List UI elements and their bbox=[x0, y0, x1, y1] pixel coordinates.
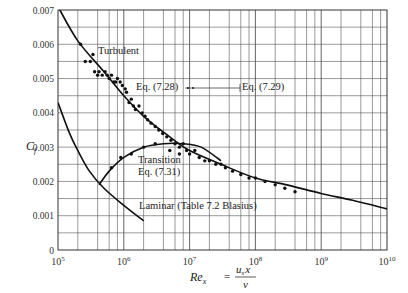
data-point bbox=[127, 101, 130, 104]
data-point bbox=[198, 156, 201, 159]
skin-friction-chart: 00.0010.0020.0030.0040.0050.0060.007 105… bbox=[0, 0, 408, 293]
y-tick-label: 0.001 bbox=[33, 211, 55, 221]
data-point bbox=[293, 190, 296, 193]
data-point bbox=[137, 104, 140, 107]
svg-text:v: v bbox=[243, 278, 248, 290]
data-point bbox=[165, 135, 168, 138]
data-point bbox=[119, 156, 122, 159]
data-point bbox=[254, 176, 257, 179]
eq-range-marker bbox=[187, 87, 189, 89]
data-point bbox=[142, 145, 145, 148]
data-point bbox=[203, 159, 206, 162]
data-point bbox=[263, 180, 266, 183]
data-point bbox=[130, 152, 133, 155]
data-point bbox=[182, 142, 185, 145]
data-point bbox=[140, 111, 143, 114]
data-point bbox=[185, 149, 188, 152]
annotation-eq-7-31: Eq. (7.31) bbox=[138, 166, 181, 178]
data-point bbox=[239, 173, 242, 176]
data-point bbox=[178, 145, 181, 148]
data-point bbox=[161, 132, 164, 135]
data-point bbox=[134, 108, 137, 111]
series-line bbox=[58, 103, 144, 221]
data-point bbox=[132, 104, 135, 107]
annotation-eq-7-29: Eq. (7.29) bbox=[242, 81, 285, 93]
data-point bbox=[125, 91, 128, 94]
x-tick-label: 109 bbox=[314, 255, 328, 267]
data-point bbox=[96, 73, 99, 76]
y-axis-label: Cf bbox=[26, 139, 38, 155]
y-tick-labels: 00.0010.0020.0030.0040.0050.0060.007 bbox=[33, 6, 55, 256]
data-point bbox=[106, 73, 109, 76]
data-point bbox=[143, 115, 146, 118]
data-point bbox=[123, 87, 126, 90]
annotation-turbulent: Turbulent bbox=[98, 45, 139, 56]
data-point bbox=[110, 166, 113, 169]
data-point bbox=[219, 163, 222, 166]
data-point bbox=[146, 118, 149, 121]
y-tick-label: 0.004 bbox=[33, 108, 55, 118]
y-tick-label: 0.007 bbox=[33, 6, 55, 16]
y-tick-label: 0.002 bbox=[33, 177, 55, 187]
svg-text:usx: usx bbox=[236, 263, 250, 277]
x-tick-label: 107 bbox=[183, 255, 197, 267]
data-point bbox=[283, 187, 286, 190]
data-point bbox=[110, 73, 113, 76]
data-point bbox=[193, 149, 196, 152]
data-point bbox=[130, 97, 133, 100]
svg-text:=: = bbox=[224, 270, 230, 282]
annotation-transition: Transition bbox=[138, 154, 182, 165]
x-tick-label: 1010 bbox=[379, 255, 397, 267]
data-point bbox=[103, 70, 106, 73]
series-layer bbox=[58, 7, 387, 221]
data-point bbox=[157, 128, 160, 131]
data-point bbox=[208, 159, 211, 162]
data-point bbox=[274, 183, 277, 186]
data-point bbox=[214, 163, 217, 166]
data-point bbox=[84, 60, 87, 63]
x-tick-label: 106 bbox=[117, 255, 131, 267]
data-point bbox=[91, 53, 94, 56]
data-point bbox=[118, 80, 121, 83]
x-axis-label: Rex = usx v bbox=[189, 263, 256, 290]
series-line bbox=[58, 7, 387, 209]
data-point bbox=[224, 166, 227, 169]
annotation-laminar: Laminar (Table 7.2 Blasius) bbox=[139, 200, 257, 212]
data-point bbox=[121, 84, 124, 87]
y-tick-label: 0.006 bbox=[33, 40, 55, 50]
data-point bbox=[169, 139, 172, 142]
data-point bbox=[114, 80, 117, 83]
x-tick-label: 108 bbox=[249, 255, 263, 267]
data-point bbox=[153, 125, 156, 128]
svg-text:Rex: Rex bbox=[189, 270, 207, 286]
data-point bbox=[231, 169, 234, 172]
data-point bbox=[168, 149, 171, 152]
data-point bbox=[108, 77, 111, 80]
data-point bbox=[93, 70, 96, 73]
data-point bbox=[188, 152, 191, 155]
eq-range-marker bbox=[192, 87, 194, 89]
data-point bbox=[97, 70, 100, 73]
data-point bbox=[116, 77, 119, 80]
data-point bbox=[79, 43, 82, 46]
annotation-eq-7-28: Eq. (7.28) bbox=[136, 81, 179, 93]
x-tick-label: 105 bbox=[51, 255, 65, 267]
y-tick-label: 0 bbox=[49, 246, 54, 256]
data-point bbox=[173, 142, 176, 145]
data-point bbox=[101, 73, 104, 76]
y-tick-label: 0.005 bbox=[33, 74, 55, 84]
data-point bbox=[153, 142, 156, 145]
x-tick-labels: 1051061071081091010 bbox=[51, 255, 396, 267]
data-point bbox=[89, 60, 92, 63]
data-point bbox=[247, 176, 250, 179]
data-point bbox=[149, 121, 152, 124]
